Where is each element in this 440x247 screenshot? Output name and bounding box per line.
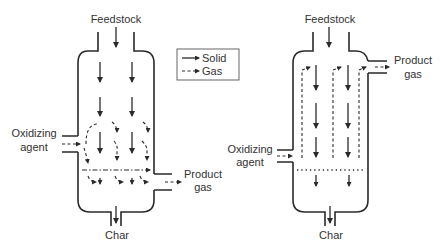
left-vessel-wall	[78, 32, 154, 226]
left-gas-arrow	[140, 176, 148, 182]
left-gas-arrow	[114, 141, 117, 160]
right-feedstock-label: Feedstock	[305, 13, 356, 25]
gasifier-diagram: Feedstock Oxidizing agent	[0, 0, 440, 247]
legend-solid-label: Solid	[202, 52, 226, 64]
left-gas-arrow	[143, 122, 148, 132]
right-product-label-1: Product	[394, 54, 432, 66]
left-gas-arrow	[115, 176, 123, 182]
right-gas-arrow	[333, 67, 341, 70]
left-char-label: Char	[105, 229, 129, 241]
left-product-label-2: gas	[194, 181, 212, 193]
right-gas-arrow	[302, 67, 310, 70]
right-product-label-2: gas	[404, 68, 422, 80]
left-product-outlet	[154, 174, 172, 190]
left-gas-arrow	[88, 176, 96, 182]
right-oxidizer-label-1: Oxidizing	[227, 143, 272, 155]
left-product-label-1: Product	[184, 168, 222, 180]
right-gasifier: Feedstock Product gas Oxidizing agent Ch…	[227, 13, 432, 241]
left-gas-arrow	[142, 141, 147, 160]
left-oxidizer-label-2: agent	[20, 141, 48, 153]
left-gasifier: Feedstock Oxidizing agent	[11, 13, 222, 241]
left-gas-arrow	[112, 122, 117, 132]
right-char-label: Char	[319, 229, 343, 241]
legend: Solid Gas	[177, 49, 239, 80]
left-gas-arrow	[86, 124, 98, 144]
left-feedstock-label: Feedstock	[91, 13, 142, 25]
left-gas-arrow	[84, 148, 88, 163]
legend-gas-label: Gas	[202, 65, 223, 77]
right-vessel-wall	[293, 32, 368, 226]
left-oxidizer-label-1: Oxidizing	[11, 127, 56, 139]
right-oxidizer-label-2: agent	[236, 156, 264, 168]
right-gas-arrow	[359, 67, 366, 70]
